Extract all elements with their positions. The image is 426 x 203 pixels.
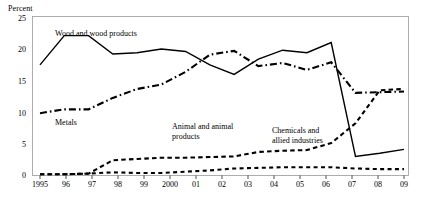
series-annotation-animal-1: Animal and animal: [172, 122, 233, 132]
x-axis-ticks: [40, 176, 404, 180]
series-line-metals: [40, 51, 404, 113]
plot-frame: [33, 17, 409, 176]
series-annotation-chem-2: allied industries: [272, 136, 323, 146]
series-annotation-animal-2: products: [172, 132, 200, 142]
series-annotation-chem-1: Chemicals and: [272, 126, 319, 136]
series-annotation-metals: Metals: [55, 118, 77, 128]
series-annotation-wood: Wood and wood products: [55, 29, 137, 39]
chart-figure: Percent 25 20 15 10 5 0 1995 96 97 98 99…: [0, 0, 426, 203]
series-lines: [40, 36, 404, 175]
